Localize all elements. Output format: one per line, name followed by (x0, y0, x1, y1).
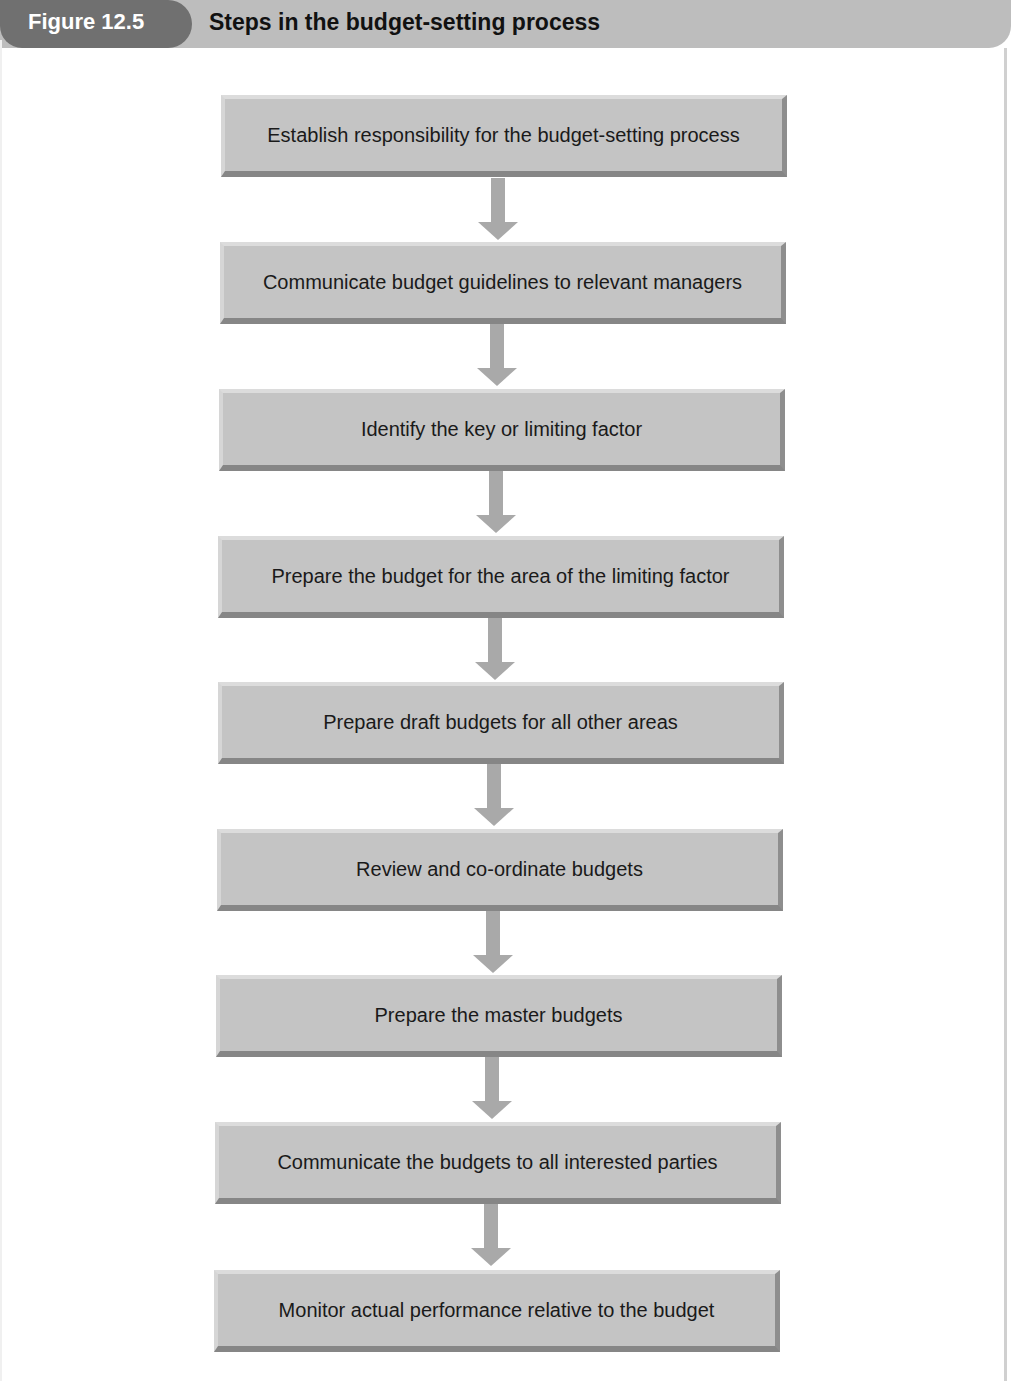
step-box-1: Establish responsibility for the budget-… (221, 95, 787, 177)
down-arrow-icon (477, 324, 517, 388)
step-label: Monitor actual performance relative to t… (279, 1299, 715, 1322)
down-arrow-icon (471, 1204, 511, 1268)
step-label: Communicate the budgets to all intereste… (277, 1151, 717, 1174)
down-arrow-icon (475, 618, 515, 682)
step-box-3: Identify the key or limiting factor (219, 389, 785, 471)
down-arrow-icon (476, 471, 516, 535)
right-border-rule (1004, 48, 1007, 1381)
figure-header-bar: Figure 12.5 Steps in the budget-setting … (0, 0, 1011, 48)
left-border-rule (0, 40, 2, 1381)
step-label: Prepare the master budgets (375, 1004, 623, 1027)
step-label: Establish responsibility for the budget-… (267, 124, 739, 147)
step-box-2: Communicate budget guidelines to relevan… (220, 242, 786, 324)
down-arrow-icon (478, 178, 518, 242)
figure-title: Steps in the budget-setting process (209, 9, 600, 36)
step-label: Prepare draft budgets for all other area… (323, 711, 678, 734)
step-box-8: Communicate the budgets to all intereste… (215, 1122, 781, 1204)
step-box-5: Prepare draft budgets for all other area… (218, 682, 784, 764)
down-arrow-icon (474, 764, 514, 828)
down-arrow-icon (472, 1057, 512, 1121)
figure-number: Figure 12.5 (28, 9, 144, 35)
step-box-9: Monitor actual performance relative to t… (214, 1270, 780, 1352)
step-label: Prepare the budget for the area of the l… (271, 565, 729, 588)
figure-number-badge: Figure 12.5 (0, 0, 192, 48)
step-label: Review and co-ordinate budgets (356, 858, 643, 881)
step-box-6: Review and co-ordinate budgets (217, 829, 783, 911)
down-arrow-icon (473, 911, 513, 975)
step-box-4: Prepare the budget for the area of the l… (218, 536, 784, 618)
step-label: Identify the key or limiting factor (361, 418, 642, 441)
step-label: Communicate budget guidelines to relevan… (263, 271, 742, 294)
step-box-7: Prepare the master budgets (216, 975, 782, 1057)
